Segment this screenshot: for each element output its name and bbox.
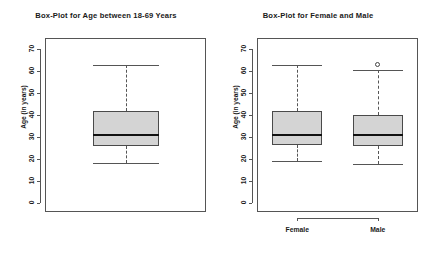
whisker-cap-lower <box>93 163 159 164</box>
y-axis-tick <box>249 93 252 94</box>
whisker-cap-upper <box>93 65 159 66</box>
y-axis-tick-label: 40 <box>240 106 247 122</box>
x-axis-tick-label-male: Male <box>348 226 408 233</box>
y-axis-tick <box>249 71 252 72</box>
y-axis-tick-label: 30 <box>240 128 247 144</box>
y-axis-tick-label: 40 <box>28 106 35 122</box>
y-axis-label: Age (in years) <box>232 72 239 177</box>
median-line <box>93 134 159 136</box>
y-axis-tick-label: 10 <box>240 172 247 188</box>
y-axis-tick-label: 0 <box>28 195 35 211</box>
y-axis-tick-label: 60 <box>240 62 247 78</box>
whisker-upper <box>378 70 379 115</box>
y-axis-line <box>40 49 41 203</box>
y-axis-tick <box>249 203 252 204</box>
whisker-cap-upper <box>272 65 322 66</box>
y-axis-tick <box>249 137 252 138</box>
y-axis-tick-label: 10 <box>28 172 35 188</box>
y-axis-tick-label: 70 <box>28 40 35 56</box>
y-axis-tick <box>37 115 40 116</box>
y-axis-tick-label: 70 <box>240 40 247 56</box>
median-line <box>272 134 322 136</box>
median-line <box>353 134 403 136</box>
y-axis-tick <box>37 137 40 138</box>
y-axis-line <box>252 49 253 203</box>
y-axis-tick-label: 0 <box>240 195 247 211</box>
y-axis-tick <box>37 93 40 94</box>
panel-age-overall: Box-Plot for Age between 18-69 Years 010… <box>0 0 212 260</box>
y-axis-tick <box>37 49 40 50</box>
whisker-upper <box>297 65 298 111</box>
whisker-cap-lower <box>272 161 322 162</box>
boxplot-figure: Box-Plot for Age between 18-69 Years 010… <box>0 0 424 260</box>
y-axis-tick-label: 50 <box>240 84 247 100</box>
whisker-cap-upper <box>353 70 403 71</box>
y-axis-tick <box>249 159 252 160</box>
whisker-lower <box>126 146 127 164</box>
y-axis-label: Age (in years) <box>20 72 27 177</box>
whisker-lower <box>378 146 379 165</box>
box-iqr <box>272 111 322 144</box>
whisker-cap-lower <box>353 164 403 165</box>
y-axis-tick <box>249 49 252 50</box>
y-axis-tick <box>37 159 40 160</box>
y-axis-tick <box>37 203 40 204</box>
whisker-lower <box>297 145 298 162</box>
y-axis-tick-label: 50 <box>28 84 35 100</box>
box-iqr <box>93 111 159 145</box>
x-axis-tick <box>297 218 298 221</box>
x-axis-tick <box>378 218 379 221</box>
y-axis-tick-label: 60 <box>28 62 35 78</box>
box-iqr <box>353 115 403 146</box>
panel-right-title: Box-Plot for Female and Male <box>212 11 424 20</box>
whisker-upper <box>126 65 127 111</box>
panel-age-by-sex: Box-Plot for Female and Male 01020304050… <box>212 0 424 260</box>
y-axis-tick-label: 20 <box>28 150 35 166</box>
y-axis-tick <box>37 181 40 182</box>
y-axis-tick <box>249 115 252 116</box>
y-axis-tick <box>37 71 40 72</box>
panel-left-title: Box-Plot for Age between 18-69 Years <box>0 11 212 20</box>
y-axis-tick <box>249 181 252 182</box>
x-axis-tick-label-female: Female <box>267 226 327 233</box>
y-axis-tick-label: 20 <box>240 150 247 166</box>
y-axis-tick-label: 30 <box>28 128 35 144</box>
x-axis-line <box>297 218 378 219</box>
outlier-point <box>375 62 380 67</box>
